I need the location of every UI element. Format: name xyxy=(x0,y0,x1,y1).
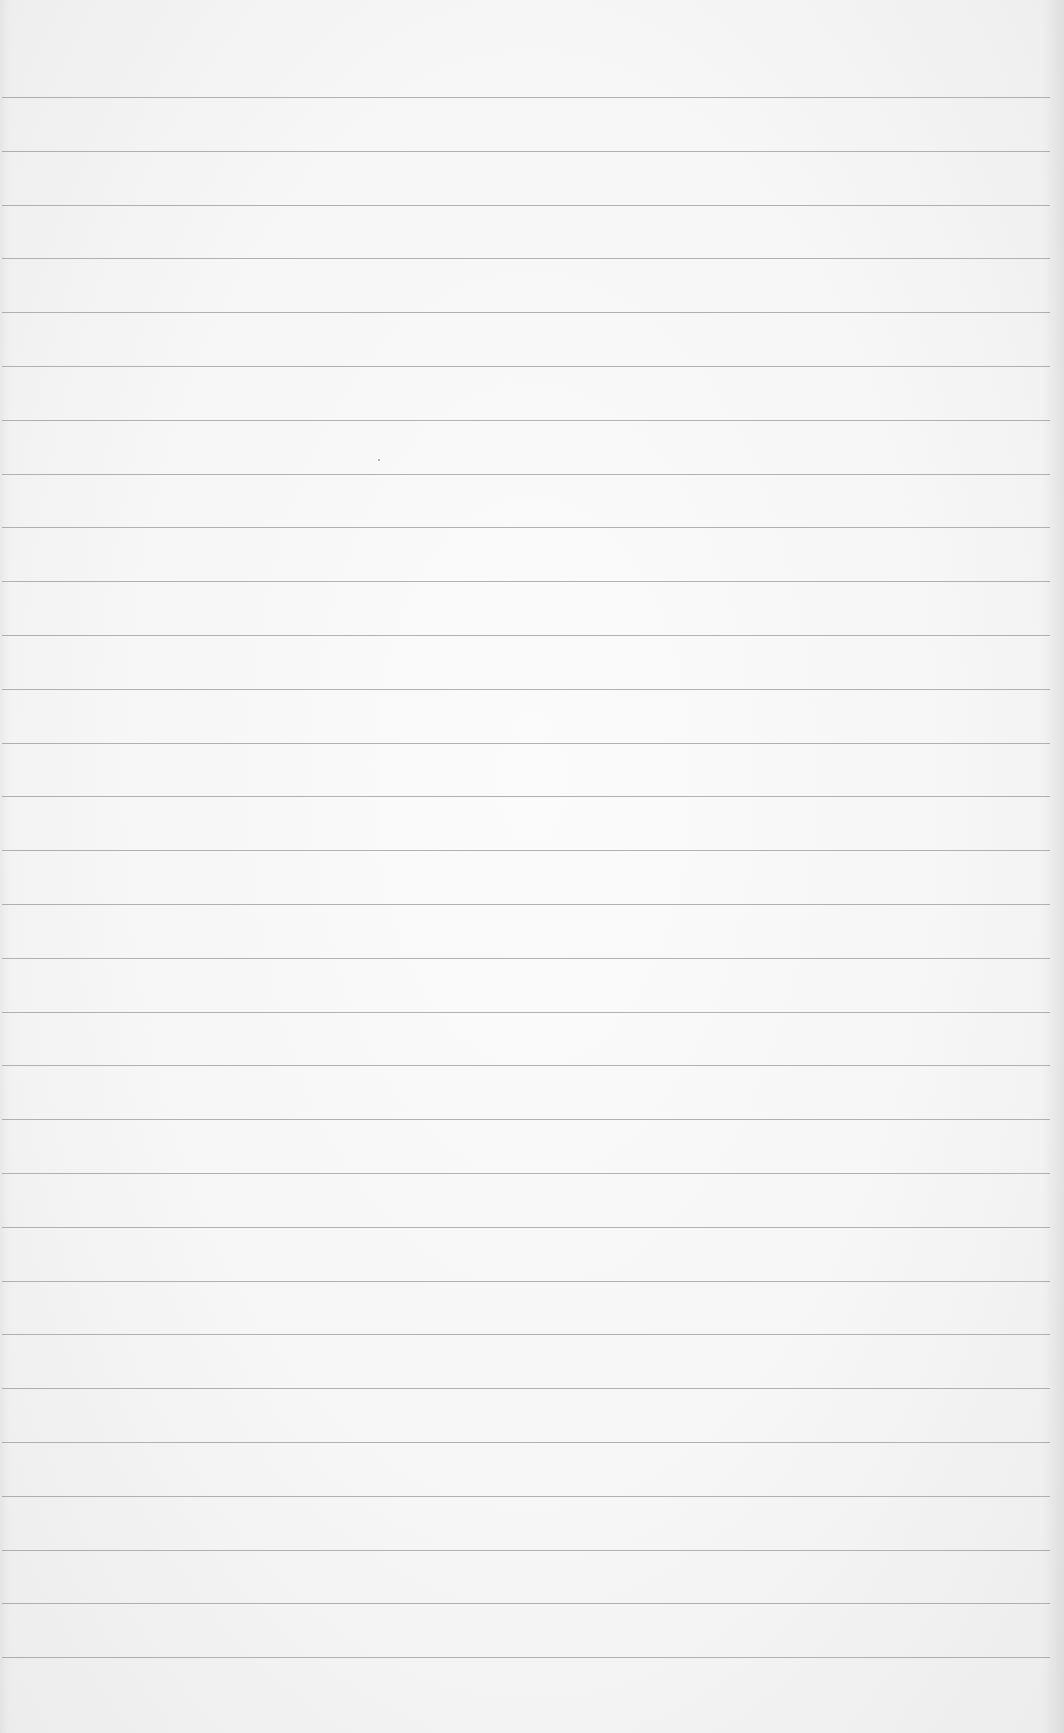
ruled-line xyxy=(2,689,1050,690)
ruled-line xyxy=(2,1388,1050,1389)
ruled-line xyxy=(2,366,1050,367)
right-edge-shadow xyxy=(1042,0,1064,1733)
ruled-line xyxy=(2,258,1050,259)
paper-speck xyxy=(378,459,380,461)
ruled-line xyxy=(2,527,1050,528)
ruled-line xyxy=(2,635,1050,636)
ruled-line xyxy=(2,1442,1050,1443)
ruled-line xyxy=(2,205,1050,206)
ruled-line xyxy=(2,97,1050,98)
ruled-line xyxy=(2,420,1050,421)
left-edge-shadow xyxy=(0,0,10,1733)
ruled-line xyxy=(2,474,1050,475)
ruled-line xyxy=(2,1065,1050,1066)
ruled-line xyxy=(2,1173,1050,1174)
ruled-line xyxy=(2,796,1050,797)
lined-paper-sheet xyxy=(0,0,1064,1733)
ruled-line xyxy=(2,1334,1050,1335)
ruled-line xyxy=(2,850,1050,851)
ruled-line xyxy=(2,904,1050,905)
ruled-line xyxy=(2,1012,1050,1013)
ruled-line xyxy=(2,1657,1050,1658)
ruled-line xyxy=(2,151,1050,152)
ruled-line xyxy=(2,743,1050,744)
ruled-line xyxy=(2,1119,1050,1120)
ruled-line xyxy=(2,581,1050,582)
ruled-line xyxy=(2,1550,1050,1551)
ruled-line xyxy=(2,312,1050,313)
ruled-line xyxy=(2,1281,1050,1282)
ruled-line xyxy=(2,1603,1050,1604)
ruled-line xyxy=(2,958,1050,959)
ruled-line xyxy=(2,1496,1050,1497)
ruled-line xyxy=(2,1227,1050,1228)
